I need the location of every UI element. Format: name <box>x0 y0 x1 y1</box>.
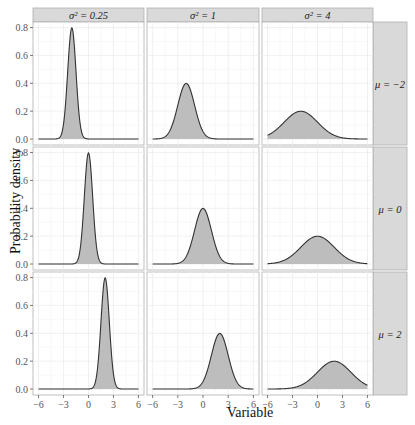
y-axis-label: Probability density <box>8 154 24 254</box>
x-tick-label: 6 <box>136 399 141 410</box>
clipped-caption <box>8 418 408 425</box>
y-tick-label: 0.2 <box>16 356 29 367</box>
facet-panel <box>33 147 144 270</box>
facet-panel <box>262 272 373 395</box>
x-tick-label: 3 <box>111 399 116 410</box>
facet-panel <box>262 147 373 270</box>
plot-area: σ² = 0.25σ² = 1σ² = 4μ = −2μ = 0μ = 20.0… <box>0 0 415 425</box>
row-strip: μ = 2 <box>373 272 407 395</box>
facet-panel <box>262 22 373 145</box>
y-tick-label: 0.8 <box>16 22 29 33</box>
column-strip-label: σ² = 0.25 <box>69 10 108 21</box>
x-tick-label: 0 <box>315 399 320 410</box>
facet-panel <box>147 147 259 270</box>
y-tick-label: 0.4 <box>16 328 29 339</box>
row-strip: μ = −2 <box>373 22 407 145</box>
column-strip-label: σ² = 1 <box>190 10 216 21</box>
y-tick-label: 0.0 <box>16 134 29 145</box>
x-tick-label: −3 <box>172 399 183 410</box>
column-strip: σ² = 0.25 <box>33 8 144 22</box>
column-strip: σ² = 4 <box>262 8 373 22</box>
y-tick-label: 0.8 <box>16 272 29 283</box>
row-strip: μ = 0 <box>373 147 407 270</box>
x-tick-label: −3 <box>58 399 69 410</box>
facet-panel <box>147 272 259 395</box>
row-strip-label: μ = −2 <box>374 79 406 90</box>
faceted-density-chart: σ² = 0.25σ² = 1σ² = 4μ = −2μ = 0μ = 20.0… <box>0 0 415 425</box>
y-tick-label: 0.2 <box>16 106 29 117</box>
facet-panel <box>147 22 259 145</box>
facet-panel <box>33 22 144 145</box>
column-strip-label: σ² = 4 <box>305 10 332 21</box>
facet-panel <box>33 272 144 395</box>
column-strip: σ² = 1 <box>147 8 259 22</box>
x-tick-label: −6 <box>147 399 158 410</box>
x-tick-label: −6 <box>33 399 44 410</box>
y-tick-label: 0.6 <box>16 300 29 311</box>
y-tick-label: 0.0 <box>16 259 29 270</box>
x-tick-label: 6 <box>365 399 370 410</box>
y-tick-label: 0.0 <box>16 384 29 395</box>
x-tick-label: 3 <box>340 399 345 410</box>
row-strip-label: μ = 2 <box>378 329 403 340</box>
row-strip-label: μ = 0 <box>378 204 403 215</box>
y-tick-label: 0.6 <box>16 50 29 61</box>
y-tick-label: 0.4 <box>16 78 29 89</box>
x-tick-label: 0 <box>86 399 91 410</box>
